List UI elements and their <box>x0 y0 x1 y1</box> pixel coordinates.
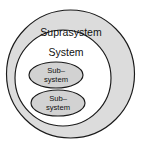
system-label: System <box>48 46 83 58</box>
subsystem-2-label-line1: Sub– <box>49 94 68 103</box>
subsystem-1-label-line1: Sub– <box>47 66 66 75</box>
subsystem-2-label-line2: system <box>46 103 70 112</box>
diagram-canvas: Suprasystem System Sub– system Sub– syst… <box>0 0 144 147</box>
systems-diagram: Suprasystem System Sub– system Sub– syst… <box>0 0 144 147</box>
subsystem-1-label-line2: system <box>44 75 68 84</box>
suprasystem-label: Suprasystem <box>40 26 102 38</box>
